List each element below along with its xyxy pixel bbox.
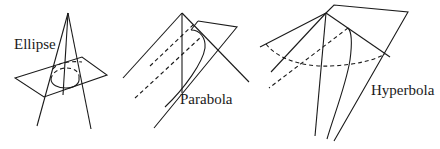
cutting-plane bbox=[154, 21, 237, 128]
cone-edge-right bbox=[68, 13, 91, 129]
parabola-label: Parabola bbox=[180, 91, 233, 107]
hyperbola-panel: Hyperbola bbox=[260, 5, 435, 141]
cone-axis-line bbox=[315, 13, 326, 136]
hyperbola-label: Hyperbola bbox=[371, 82, 435, 98]
hidden-line-1 bbox=[150, 25, 193, 66]
cone-edge-left bbox=[260, 13, 326, 47]
cutting-plane bbox=[15, 57, 107, 97]
parabola-panel: Parabola bbox=[123, 13, 249, 128]
ellipse-label: Ellipse bbox=[14, 36, 56, 52]
hidden-line-2 bbox=[135, 37, 201, 98]
conic-sections-diagram: Ellipse Parabola Hyperbola bbox=[0, 0, 440, 149]
ellipse-panel: Ellipse bbox=[14, 13, 107, 129]
cone-edge-right bbox=[326, 13, 390, 57]
cone-axis-line bbox=[63, 13, 68, 95]
ellipse-front bbox=[51, 78, 79, 88]
hidden-line bbox=[269, 28, 348, 88]
cone-edge-left bbox=[123, 13, 182, 78]
hyperbola-curve bbox=[327, 28, 351, 139]
cone-base-arc-dashed bbox=[266, 44, 385, 66]
cutting-plane bbox=[326, 5, 408, 141]
